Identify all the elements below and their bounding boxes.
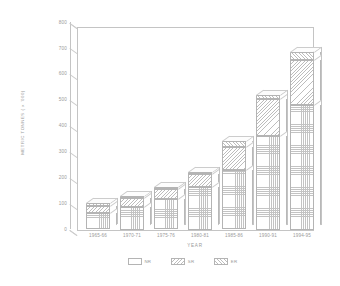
bar-segment-er[interactable]	[120, 196, 144, 198]
bar-back-right-edge	[219, 167, 220, 224]
x-tick-label: 1975-76	[149, 233, 183, 238]
y-tick-label: 400	[47, 123, 67, 128]
bar-top-edge-back	[263, 90, 287, 91]
axis-depth-connector-bottom	[69, 230, 77, 236]
y-tick-label: 600	[47, 71, 67, 76]
y-axis-line-front	[70, 22, 71, 229]
bar-segment-er[interactable]	[290, 52, 314, 60]
x-tick-label: 1970-71	[115, 233, 149, 238]
legend-item-er[interactable]: ER	[214, 258, 237, 265]
legend-swatch-sr	[171, 258, 185, 265]
chart-legend: NRSRER	[128, 258, 253, 265]
bar-side-face	[314, 60, 321, 105]
bar-side-face	[178, 199, 185, 230]
bar-segment-nr[interactable]	[290, 105, 314, 230]
y-axis-title: METRIC TONNES ( x '000)	[20, 68, 25, 178]
bar-segment-nr[interactable]	[154, 199, 178, 230]
bar-segment-sr[interactable]	[256, 99, 280, 137]
bar-top-edge-back	[93, 198, 117, 199]
x-tick-label: 1990-91	[251, 233, 285, 238]
legend-label: ER	[231, 259, 238, 264]
bar-back-right-edge	[117, 198, 118, 224]
y-tick-label: 500	[47, 97, 67, 102]
y-tick-label: 700	[47, 46, 67, 51]
bar-top-edge-back	[229, 136, 253, 137]
bar-segment-sr[interactable]	[188, 174, 212, 186]
bar-back-right-edge	[151, 191, 152, 224]
bar-back-right-edge	[287, 90, 288, 225]
legend-label: SR	[188, 259, 195, 264]
bar-segment-nr[interactable]	[256, 136, 280, 229]
x-tick-label: 1985-86	[217, 233, 251, 238]
y-tick-label: 200	[47, 175, 67, 180]
bar-segment-nr[interactable]	[188, 187, 212, 230]
bar-segment-nr[interactable]	[222, 170, 246, 229]
y-tick-label: 300	[47, 149, 67, 154]
x-tick-label: 1994-95	[285, 233, 319, 238]
bar-side-face	[314, 105, 321, 230]
bar-segment-er[interactable]	[188, 172, 212, 174]
bar-segment-er[interactable]	[222, 141, 246, 146]
bar-segment-sr[interactable]	[86, 206, 110, 213]
bar-segment-er[interactable]	[256, 95, 280, 99]
bar-back-right-edge	[253, 136, 254, 224]
bar-segment-nr[interactable]	[120, 207, 144, 229]
bar-back-right-edge	[321, 47, 322, 225]
bar-segment-er[interactable]	[154, 187, 178, 189]
legend-item-nr[interactable]: NR	[128, 258, 151, 265]
bar-segment-sr[interactable]	[154, 189, 178, 199]
y-axis-line-back	[77, 27, 78, 229]
chart-container: METRIC TONNES ( x '000) 8007006005004003…	[0, 0, 340, 286]
bar-segment-sr[interactable]	[222, 147, 246, 171]
legend-swatch-er	[214, 258, 228, 265]
bar-side-face	[280, 136, 287, 229]
legend-label: NR	[145, 259, 152, 264]
bar-top-edge-back	[161, 182, 185, 183]
y-tick-label: 100	[47, 201, 67, 206]
x-tick-label: 1980-81	[183, 233, 217, 238]
bar-segment-er[interactable]	[86, 203, 110, 206]
bar-segment-sr[interactable]	[290, 60, 314, 105]
y-tick-label: 0	[47, 227, 67, 232]
bar-side-face	[246, 170, 253, 229]
bar-back-right-edge	[185, 182, 186, 225]
legend-item-sr[interactable]: SR	[171, 258, 194, 265]
bar-top-edge-back	[297, 47, 321, 48]
x-tick-label: 1965-66	[81, 233, 115, 238]
bar-top-edge-back	[127, 191, 151, 192]
legend-swatch-nr	[128, 258, 142, 265]
bar-side-face	[280, 99, 287, 137]
bar-side-face	[212, 187, 219, 230]
y-tick-label: 800	[47, 20, 67, 25]
x-axis-title: YEAR	[145, 243, 245, 248]
bar-segment-sr[interactable]	[120, 198, 144, 207]
bar-segment-nr[interactable]	[86, 213, 110, 229]
bar-top-edge-back	[195, 167, 219, 168]
